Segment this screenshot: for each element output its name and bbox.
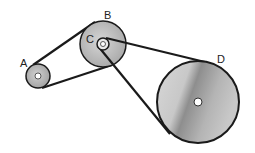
label-a: A — [20, 57, 28, 69]
pulley-diagram: A B C D — [0, 0, 255, 153]
label-d: D — [217, 53, 225, 65]
label-c: C — [86, 33, 94, 45]
pulley-a-axle — [35, 73, 41, 79]
label-b: B — [104, 9, 111, 21]
pulley-c-axle — [101, 42, 106, 47]
pulley-d-axle — [194, 98, 202, 106]
